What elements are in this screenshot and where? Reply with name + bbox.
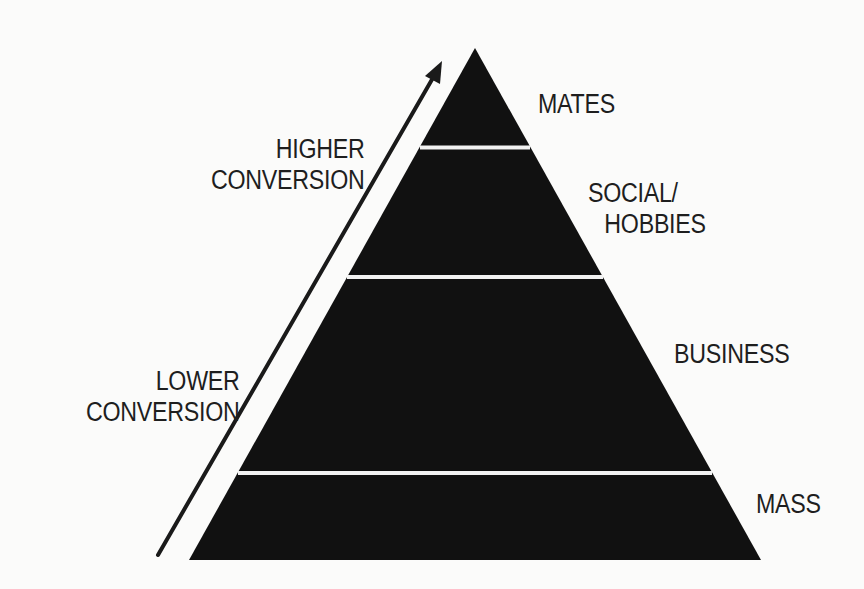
tier-label-social-line-2: HOBBIES (588, 209, 706, 240)
higher-conversion-line-1: HIGHER (211, 134, 365, 165)
tier-label-mass-line-1: MASS (756, 489, 821, 520)
tier-label-mates: MATES (538, 89, 615, 120)
tier-label-mates-line-1: MATES (538, 89, 615, 120)
lower-conversion-line-1: LOWER (86, 366, 240, 397)
tier-label-mass: MASS (756, 489, 821, 520)
pyramid-shape (189, 48, 761, 560)
tier-label-social-hobbies: SOCIAL/ HOBBIES (588, 178, 706, 240)
tier-label-social-line-1: SOCIAL/ (588, 178, 706, 209)
pyramid-diagram (0, 0, 864, 589)
tier-label-business: BUSINESS (674, 339, 789, 370)
lower-conversion-line-2: CONVERSION (86, 397, 240, 428)
tier-label-business-line-1: BUSINESS (674, 339, 789, 370)
higher-conversion-line-2: CONVERSION (211, 165, 365, 196)
higher-conversion-label: HIGHER CONVERSION (211, 134, 365, 196)
lower-conversion-label: LOWER CONVERSION (86, 366, 240, 428)
